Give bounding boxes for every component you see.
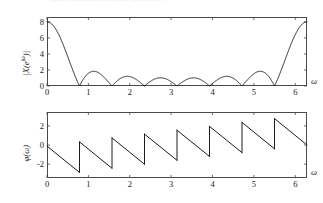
magnitude-ytick-label: 6 xyxy=(40,34,44,43)
magnitude-curve xyxy=(47,22,307,86)
magnitude-x-axis-label: ω xyxy=(311,76,317,86)
figure-container: Figure: magnitude and phase of the DTFT … xyxy=(0,0,323,203)
magnitude-ytick-label: 2 xyxy=(40,66,44,75)
phase-xtick-label: 6 xyxy=(293,180,297,189)
phase-ytick-label: 2 xyxy=(40,122,44,131)
magnitude-xtick-label: 2 xyxy=(128,88,132,97)
magnitude-xtick-label: 5 xyxy=(252,88,256,97)
magnitude-y-axis-label-tail: )| xyxy=(21,51,31,56)
phase-plot-panel xyxy=(47,112,307,178)
phase-y-axis-label: φ(ω) xyxy=(21,145,31,161)
phase-x-axis-label: ω xyxy=(311,167,317,177)
phase-xtick-label: 1 xyxy=(86,180,90,189)
phase-xtick-label: 5 xyxy=(252,180,256,189)
magnitude-y-axis-label: |X(ejω)| xyxy=(21,51,31,76)
magnitude-y-axis-label-exponent: jω xyxy=(20,56,26,61)
magnitude-ytick-label: 0 xyxy=(40,82,44,91)
magnitude-xtick-label: 1 xyxy=(86,88,90,97)
magnitude-plot-canvas xyxy=(47,17,307,86)
magnitude-plot-panel xyxy=(47,17,307,86)
magnitude-xtick-label: 0 xyxy=(45,88,49,97)
phase-ytick-label: 0 xyxy=(40,141,44,150)
phase-ytick-label: -2 xyxy=(37,160,44,169)
magnitude-xtick-label: 3 xyxy=(169,88,173,97)
phase-xtick-label: 4 xyxy=(210,180,214,189)
magnitude-ytick-label: 4 xyxy=(40,50,44,59)
magnitude-xtick-label: 4 xyxy=(210,88,214,97)
magnitude-y-axis-label-base: |X(e xyxy=(21,61,31,75)
phase-xtick-label: 3 xyxy=(169,180,173,189)
phase-curve xyxy=(47,119,307,173)
phase-plot-canvas xyxy=(47,112,307,178)
magnitude-xtick-label: 6 xyxy=(293,88,297,97)
magnitude-ytick-label: 8 xyxy=(40,18,44,27)
phase-xtick-label: 2 xyxy=(128,180,132,189)
clipped-caption-text: Figure: magnitude and phase of the DTFT xyxy=(48,0,288,2)
phase-xtick-label: 0 xyxy=(45,180,49,189)
